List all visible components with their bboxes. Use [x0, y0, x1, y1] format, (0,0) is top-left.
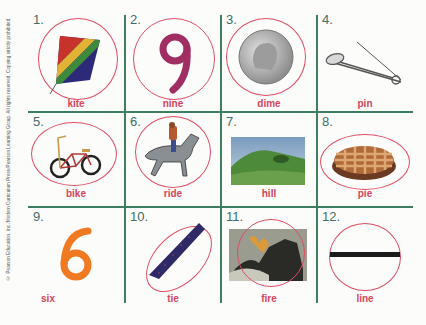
number-nine-icon: [155, 32, 195, 92]
item-word: six: [28, 293, 68, 304]
item-number: 6.: [130, 114, 141, 129]
item-10-tie: 10. tie: [125, 207, 221, 303]
item-number: 12.: [322, 209, 340, 224]
item-word: ride: [125, 188, 221, 199]
item-number: 2.: [130, 12, 141, 27]
item-12-line: 12. line: [317, 207, 413, 303]
item-word: pie: [317, 188, 413, 199]
number-six-icon: [56, 225, 96, 285]
item-number: 7.: [226, 114, 237, 129]
item-number: 5.: [33, 114, 44, 129]
phonics-worksheet: © Pearson Education, Inc./Modern Curricu…: [0, 0, 426, 325]
item-word: line: [317, 293, 413, 304]
item-number: 11.: [226, 209, 243, 224]
item-8-pie: 8. pie: [317, 112, 413, 207]
bicycle-icon: [50, 132, 102, 182]
hill-photo-icon: [231, 137, 305, 185]
item-word: hill: [221, 188, 317, 199]
item-word: kite: [28, 98, 124, 109]
item-word: bike: [28, 188, 124, 199]
item-word: dime: [221, 98, 317, 109]
item-word: nine: [125, 98, 221, 109]
copyright-notice: © Pearson Education, Inc./Modern Curricu…: [3, 40, 13, 280]
item-number: 9.: [33, 209, 44, 224]
answer-circle[interactable]: [237, 219, 305, 287]
line-icon: [330, 252, 400, 257]
necktie-icon: [145, 219, 209, 283]
horse-rider-icon: [141, 122, 205, 182]
item-word: tie: [125, 293, 221, 304]
item-1-kite: 1. kite: [28, 10, 124, 111]
item-7-hill: 7. hill: [221, 112, 317, 207]
item-11-fire: 11. fire: [221, 207, 317, 303]
item-4-pin: 4. pin: [317, 10, 413, 111]
answer-circle[interactable]: [329, 223, 401, 291]
item-6-ride: 6. ride: [125, 112, 221, 207]
item-9-six: 9. six: [28, 207, 124, 303]
item-3-dime: 3. dime: [221, 10, 317, 111]
item-5-bike: 5. bike: [28, 112, 124, 207]
item-number: 3.: [226, 12, 237, 27]
item-number: 4.: [322, 12, 333, 27]
item-word: fire: [221, 293, 317, 304]
item-number: 8.: [322, 114, 333, 129]
safety-pin-icon: [323, 42, 403, 87]
item-2-nine: 2. nine: [125, 10, 221, 111]
pie-icon: [331, 142, 397, 182]
dime-coin-icon: [237, 28, 295, 86]
item-number: 1.: [33, 12, 44, 27]
item-word: pin: [317, 98, 413, 109]
kite-icon: [56, 32, 106, 97]
